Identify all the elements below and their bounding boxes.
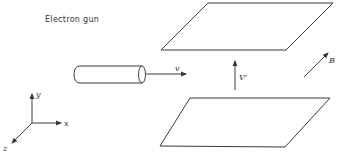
velocity-arrow: v <box>146 64 186 74</box>
gun-aperture <box>139 66 146 83</box>
magnetic-field-label: B <box>328 56 335 65</box>
electron-gun-label: Electron gun <box>45 15 99 24</box>
voltage-label: V' <box>239 73 247 82</box>
electron-gun <box>74 66 146 83</box>
electron-deflection-diagram: Electron gun v V' B y <box>0 0 339 154</box>
y-axis-label: y <box>35 90 41 99</box>
z-axis-label: z <box>2 144 8 153</box>
top-plate <box>161 3 333 50</box>
magnetic-field-arrow: B <box>304 53 335 77</box>
coordinate-axes: y x z <box>2 90 69 153</box>
x-axis-label: x <box>64 119 69 128</box>
bottom-plate <box>160 98 330 147</box>
voltage-arrow: V' <box>235 61 247 90</box>
velocity-label: v <box>175 64 180 73</box>
z-axis <box>12 123 32 143</box>
